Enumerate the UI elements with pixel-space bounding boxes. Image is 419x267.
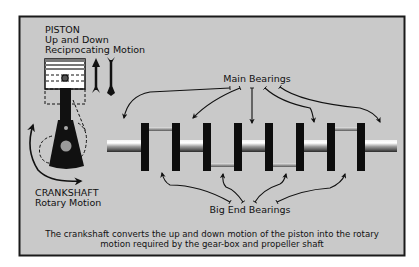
caption-line2: motion required by the gear-box and prop… <box>100 239 324 249</box>
crankshaft-line2: Rotary Motion <box>35 197 101 208</box>
big-end-bearings-label: Big End Bearings <box>209 204 290 215</box>
piston-line3: Reciprocating Motion <box>45 44 145 55</box>
main-bearings-label: Main Bearings <box>223 73 290 84</box>
caption-line1: The crankshaft converts the up and down … <box>44 229 379 239</box>
crankshaft-diagram: PISTON Up and Down Reciprocating Motion <box>0 0 419 267</box>
